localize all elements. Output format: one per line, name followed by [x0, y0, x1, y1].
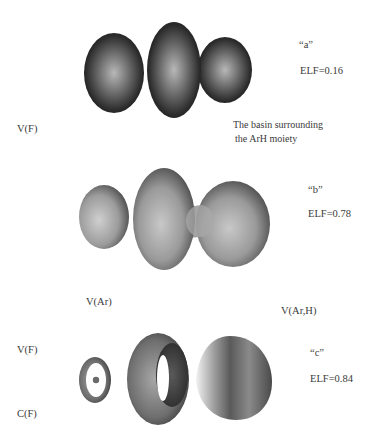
panel-c-vf-label: V(F) [17, 343, 37, 356]
panel-a-isosurface [80, 18, 260, 118]
panel-c-elf-value: ELF=0.84 [310, 372, 353, 385]
panel-b-lobe-middle [133, 168, 195, 270]
panel-a-vf-label: V(F) [17, 122, 37, 135]
panel-c-isosurface [79, 333, 272, 425]
panel-a-lobe-left [84, 33, 144, 113]
panel-c-cf-label: C(F) [17, 407, 37, 420]
panel-a-lobe-right [198, 37, 252, 103]
panel-b-isosurface [79, 168, 270, 270]
panel-b-elf-value: ELF=0.78 [308, 207, 351, 220]
panel-c-core [93, 377, 99, 383]
panel-c-cap [196, 336, 272, 420]
panel-b-var-label: V(Ar) [86, 295, 112, 308]
panel-a-elf-value: ELF=0.16 [300, 64, 343, 77]
panel-a-label: “a” [299, 38, 313, 51]
panel-b-label: “b” [308, 183, 323, 196]
panel-b-varh-label: V(Ar,H) [281, 304, 316, 317]
panel-c-label: “c” [310, 346, 324, 359]
panel-a-basin-label-line1: The basin surrounding [233, 118, 323, 131]
panel-a-basin-label-line2: the ArH moiety [235, 132, 297, 145]
panel-b-sphere-left [79, 185, 129, 249]
